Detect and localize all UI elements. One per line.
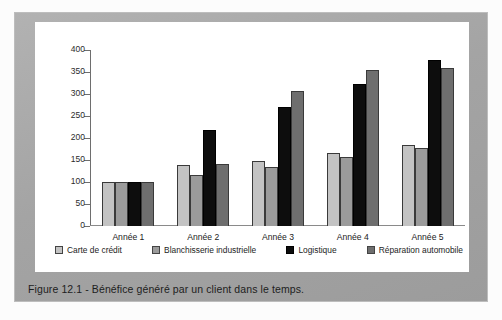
y-axis-tick-label: 100: [71, 176, 90, 186]
x-axis-tick-label: Année 4: [315, 232, 390, 242]
legend-swatch: [367, 246, 375, 254]
bar: [265, 167, 278, 226]
bar-group: Année 3: [241, 50, 316, 226]
bar: [402, 145, 415, 226]
x-axis-tick-label: Année 3: [241, 232, 316, 242]
bar-group: Année 2: [166, 50, 241, 226]
bar: [216, 164, 229, 226]
legend-item: Carte de crédit: [55, 245, 122, 255]
legend-item: Blanchisserie industrielle: [152, 245, 256, 255]
legend-swatch: [152, 246, 160, 254]
bar: [353, 84, 366, 226]
legend-item: Réparation automobile: [367, 245, 463, 255]
chart-card: 050100150200250300350400 Année 1Année 2A…: [35, 22, 469, 272]
legend-swatch: [55, 246, 63, 254]
bar-group: Année 5: [390, 50, 465, 226]
bar: [415, 148, 428, 226]
bar: [190, 175, 203, 226]
y-axis-tick-label: 200: [71, 132, 90, 142]
bar: [102, 182, 115, 226]
legend-label: Blanchisserie industrielle: [164, 245, 256, 255]
bar: [428, 60, 441, 226]
x-axis-tick-label: Année 2: [166, 232, 241, 242]
legend-label: Réparation automobile: [379, 245, 463, 255]
x-axis-tick-label: Année 1: [91, 232, 166, 242]
figure-caption-bar: Figure 12.1 - Bénéfice généré par un cli…: [14, 276, 488, 302]
bar: [177, 165, 190, 226]
y-axis-tick-label: 150: [71, 154, 90, 164]
bar: [327, 153, 340, 226]
bar: [340, 157, 353, 226]
bar: [278, 107, 291, 226]
chart-legend: Carte de créditBlanchisserie industriell…: [55, 245, 463, 255]
legend-item: Logistique: [286, 245, 336, 255]
bar-group: Année 4: [315, 50, 390, 226]
legend-swatch: [286, 246, 294, 254]
bar: [128, 182, 141, 226]
y-axis-tick-label: 400: [71, 44, 90, 54]
bar: [366, 70, 379, 226]
bar: [203, 130, 216, 226]
y-axis-tick-label: 0: [80, 220, 90, 230]
figure-frame: 050100150200250300350400 Année 1Année 2A…: [14, 12, 488, 302]
bar-group: Année 1: [91, 50, 166, 226]
legend-label: Carte de crédit: [67, 245, 122, 255]
x-axis-tick-label: Année 5: [390, 232, 465, 242]
bar-chart-plot: 050100150200250300350400 Année 1Année 2A…: [35, 22, 469, 272]
y-axis-tick-label: 250: [71, 110, 90, 120]
bar: [141, 182, 154, 226]
y-axis-tick-label: 50: [76, 198, 90, 208]
bar: [115, 182, 128, 226]
bar: [252, 161, 265, 226]
y-axis-tick-label: 350: [71, 66, 90, 76]
y-axis-tick-label: 300: [71, 88, 90, 98]
legend-label: Logistique: [298, 245, 336, 255]
bar-groups-area: Année 1Année 2Année 3Année 4Année 5: [91, 50, 465, 226]
bar: [441, 68, 454, 226]
figure-page: 050100150200250300350400 Année 1Année 2A…: [0, 0, 502, 320]
figure-caption: Figure 12.1 - Bénéfice généré par un cli…: [28, 283, 304, 295]
bar: [291, 91, 304, 226]
